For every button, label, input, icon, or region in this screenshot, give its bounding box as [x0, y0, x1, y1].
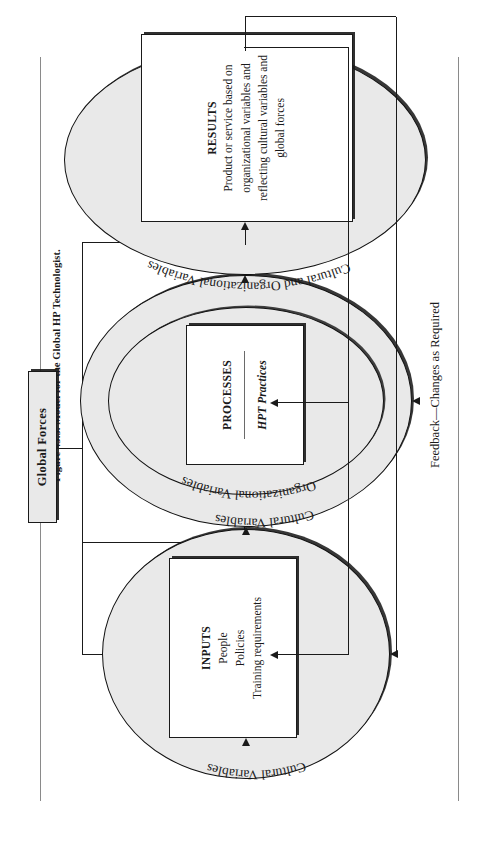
- connector-globalforces-spine: [82, 243, 83, 655]
- box-inputs-title: INPUTS: [199, 626, 215, 670]
- feedback-main-run: [396, 17, 397, 654]
- feedback-spine: [348, 47, 349, 655]
- feedback-rise-to-processes: [276, 402, 348, 403]
- arrowhead-feedback-to-inputs: [270, 651, 278, 659]
- arrowhead-into-results-box: [240, 222, 248, 230]
- arrowhead-feedback-to-processes: [270, 399, 278, 407]
- box-inputs: INPUTS People Policies Training requirem…: [169, 558, 297, 738]
- arrowhead-inputs-to-processes: [241, 527, 249, 535]
- box-results: RESULTS Product or service based on orga…: [141, 34, 353, 222]
- connector-into-results-box-line: [245, 230, 246, 245]
- figure-diagram: Cultural Variables Cultural Variables Or…: [36, 51, 454, 795]
- box-results-title: RESULTS: [204, 101, 220, 154]
- box-inputs-line-2: Training requirements: [249, 597, 266, 699]
- box-processes-divider: [244, 351, 245, 439]
- feedback-rise-to-inputs: [276, 654, 348, 655]
- feedback-corner-down: [245, 16, 396, 17]
- box-inputs-line-0: People: [214, 632, 231, 663]
- arrowhead-processes-to-results: [240, 275, 248, 283]
- feedback-exit-run: [245, 17, 246, 51]
- connector-globalforces-stem: [55, 448, 83, 449]
- feedback-down-from-results: [244, 47, 348, 48]
- page-rule-right: [458, 57, 459, 801]
- arrowhead-feedback-inputs: [390, 651, 398, 659]
- box-results-body: Product or service based on organization…: [220, 43, 289, 213]
- box-inputs-line-1: Policies: [232, 630, 249, 666]
- box-processes-subtitle: HPT Practices: [254, 360, 270, 429]
- feedback-label: Feedback—Changes as Required: [428, 275, 443, 495]
- global-forces-box: Global Forces: [28, 371, 57, 523]
- global-forces-label: Global Forces: [35, 408, 50, 486]
- box-processes-title: PROCESSES: [219, 360, 235, 430]
- arrowhead-feedback-processes: [412, 398, 420, 406]
- box-processes: PROCESSES HPT Practices: [186, 325, 304, 465]
- arrowhead-into-inputs-box: [241, 738, 249, 746]
